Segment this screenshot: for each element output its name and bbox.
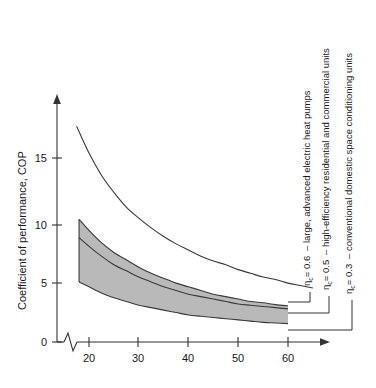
svg-text:ηc= 0.6: ηc= 0.6	[301, 256, 314, 286]
y-axis-arrowhead	[53, 94, 61, 104]
annotation-leader-lines	[288, 292, 352, 330]
y-tick-label-5: 5	[41, 277, 47, 289]
annotation-text-2: – high-efficiency residential and commer…	[320, 48, 331, 255]
x-tick-label-20: 20	[83, 352, 95, 364]
annotation-eta-0-5: ηc= 0.5 – high-efficiency residential an…	[320, 48, 333, 290]
x-axis-arrowhead	[320, 338, 330, 346]
svg-text:ηc= 0.5: ηc= 0.5	[320, 260, 333, 290]
y-tick-label-10: 10	[35, 219, 47, 231]
shaded-uncertainty-band	[79, 219, 288, 323]
annotation-eta-0-6: ηc= 0.6 – large, advanced electric heat …	[301, 90, 314, 286]
y-axis: 15 10 5 0	[35, 94, 62, 348]
x-tick-label-60: 60	[282, 352, 294, 364]
y-tick-label-0: 0	[41, 336, 47, 348]
plot-area	[77, 126, 313, 323]
x-tick-label-50: 50	[232, 352, 244, 364]
annotation-text-3: – conventional domestic space conditioni…	[343, 53, 354, 259]
leader-line-eta-0-5	[288, 296, 329, 313]
eta-value-3: = 0.3	[343, 264, 354, 285]
annotation-eta-0-3: ηc= 0.3 – conventional domestic space co…	[343, 53, 356, 294]
cop-vs-temperature-chart: Coefficient of performance, COP 15 10 5 …	[0, 0, 376, 388]
annotation-text-1: – large, advanced electric heat pumps	[301, 90, 312, 251]
y-axis-title-text: Coefficient of performance, COP	[16, 151, 28, 310]
eta-value-2: = 0.5	[320, 260, 331, 281]
leader-line-eta-0-3	[288, 300, 352, 330]
svg-text:ηc= 0.3: ηc= 0.3	[343, 264, 356, 294]
leader-line-eta-0-6	[288, 292, 310, 302]
x-tick-label-30: 30	[132, 352, 144, 364]
y-axis-title: Coefficient of performance, COP	[16, 151, 28, 310]
x-tick-label-40: 40	[182, 352, 194, 364]
chart-figure: Coefficient of performance, COP 15 10 5 …	[0, 0, 376, 388]
x-axis: 20 30 40 50 60	[57, 333, 330, 364]
y-tick-label-15: 15	[35, 152, 47, 164]
eta-value-1: = 0.6	[301, 256, 312, 277]
x-axis-break-symbol	[64, 333, 77, 351]
